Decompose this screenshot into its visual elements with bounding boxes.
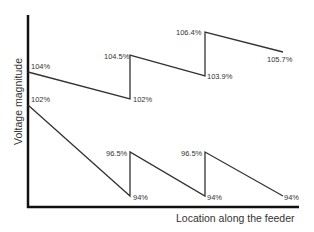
y-axis-title: Voltage magnitude: [12, 58, 24, 145]
data-label: 102%: [133, 95, 153, 104]
data-label: 105.7%: [267, 55, 293, 64]
data-label: 102%: [31, 95, 51, 104]
data-label: 94%: [284, 193, 299, 202]
x-axis-title: Location along the feeder: [176, 212, 295, 224]
upper-voltage-line: [28, 32, 283, 99]
data-label: 96.5%: [181, 149, 203, 158]
lower-voltage-line: [28, 105, 283, 196]
data-label: 94%: [207, 193, 222, 202]
data-label: 96.5%: [106, 149, 128, 158]
data-label: 106.4%: [176, 28, 202, 37]
data-label: 103.9%: [207, 72, 233, 81]
data-label: 104.5%: [104, 52, 130, 61]
voltage-profile-chart: 104% 102% 104.5% 103.9% 106.4% 105.7% 10…: [0, 0, 314, 232]
data-label: 104%: [31, 62, 51, 71]
data-label: 94%: [133, 193, 148, 202]
